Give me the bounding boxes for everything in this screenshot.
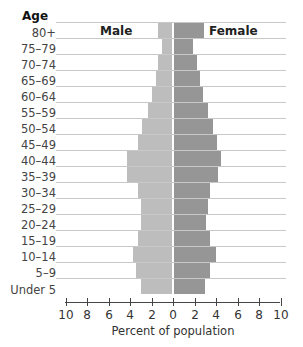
male-bar (148, 103, 172, 118)
male-bar (138, 135, 172, 150)
male-bar (133, 247, 172, 262)
female-bar (174, 55, 197, 70)
male-bar (142, 119, 172, 134)
age-row: 20–24 (0, 214, 303, 230)
age-row: 60–64 (0, 86, 303, 102)
x-tick (87, 298, 88, 306)
x-tick (259, 298, 260, 306)
x-tick-label: 8 (77, 308, 97, 322)
female-bar (174, 71, 200, 86)
female-bar (174, 199, 208, 214)
male-bar (158, 23, 172, 38)
x-tick (66, 298, 67, 306)
x-tick (195, 298, 196, 306)
x-tick-label: 10 (56, 308, 76, 322)
female-bar (174, 103, 208, 118)
female-bar (174, 23, 204, 38)
female-bar (174, 247, 216, 262)
x-tick-label: 8 (249, 308, 269, 322)
legend-male: Male (100, 24, 132, 38)
male-bar (141, 199, 172, 214)
female-bar (174, 231, 210, 246)
x-tick-label: 4 (120, 308, 140, 322)
male-bar (156, 71, 172, 86)
x-tick-label: 6 (228, 308, 248, 322)
age-row: 40–44 (0, 150, 303, 166)
x-tick (130, 298, 131, 306)
male-bar (127, 167, 172, 182)
male-bar (158, 55, 172, 70)
age-row: 50–54 (0, 118, 303, 134)
x-tick (152, 298, 153, 306)
male-bar (152, 87, 173, 102)
age-row: 15–19 (0, 230, 303, 246)
age-row: 35–39 (0, 166, 303, 182)
x-tick-label: 6 (99, 308, 119, 322)
age-row: Under 5 (0, 278, 303, 294)
age-row: 75–79 (0, 38, 303, 54)
age-row: 65–69 (0, 70, 303, 86)
x-tick (281, 298, 282, 306)
y-axis-title: Age (22, 9, 48, 23)
female-bar (174, 263, 210, 278)
x-tick-label: 10 (271, 308, 291, 322)
male-bar (141, 279, 172, 294)
age-row: 30–34 (0, 182, 303, 198)
x-tick-label: 4 (206, 308, 226, 322)
x-tick (216, 298, 217, 306)
age-row: 10–14 (0, 246, 303, 262)
female-bar (174, 279, 205, 294)
x-tick-label: 2 (142, 308, 162, 322)
female-bar (174, 119, 213, 134)
age-row: 5–9 (0, 262, 303, 278)
female-bar (174, 215, 206, 230)
age-row: 45–49 (0, 134, 303, 150)
male-bar (127, 151, 172, 166)
x-axis-title: Percent of population (0, 324, 303, 338)
female-bar (174, 167, 218, 182)
grid-line (56, 22, 286, 23)
x-tick (109, 298, 110, 306)
male-bar (138, 183, 172, 198)
female-bar (174, 39, 193, 54)
male-bar (136, 263, 172, 278)
male-bar (138, 231, 172, 246)
female-bar (174, 135, 217, 150)
age-row: 70–74 (0, 54, 303, 70)
male-bar (162, 39, 172, 54)
x-tick (238, 298, 239, 306)
age-label: Under 5 (10, 283, 56, 297)
age-row: 25–29 (0, 198, 303, 214)
female-bar (174, 183, 210, 198)
female-bar (174, 87, 203, 102)
x-tick (173, 298, 174, 306)
legend-female: Female (209, 24, 258, 38)
age-row: 55–59 (0, 102, 303, 118)
x-tick-label: 0 (163, 308, 183, 322)
x-tick-label: 2 (185, 308, 205, 322)
male-bar (141, 215, 172, 230)
female-bar (174, 151, 221, 166)
